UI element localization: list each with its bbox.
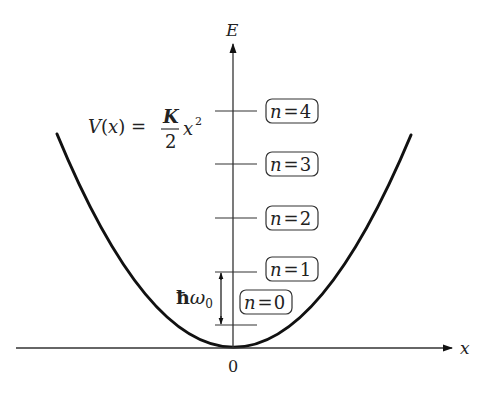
- svg-text:n=1: n=1: [270, 259, 311, 280]
- svg-text:n=2: n=2: [270, 208, 311, 229]
- level-label-3: n=3: [266, 152, 318, 176]
- formula-variable: x: [183, 118, 193, 139]
- formula-exponent: 2: [195, 115, 202, 128]
- harmonic-oscillator-diagram: E x 0 n=4 n=3 n=2 n=1 n=0 ħω0 V(x) = K: [0, 0, 491, 398]
- x-axis-label: x: [460, 338, 470, 358]
- level-label-1: n=1: [266, 257, 318, 281]
- spacing-label: ħω0: [176, 286, 213, 311]
- formula-numerator: K: [162, 106, 180, 127]
- level-label-0: n=0: [240, 290, 292, 314]
- svg-text:n=3: n=3: [270, 154, 311, 175]
- svg-text:V(x) =: V(x) =: [88, 116, 146, 137]
- svg-text:n=0: n=0: [244, 292, 285, 313]
- energy-axis-label: E: [225, 20, 239, 40]
- formula-denominator: 2: [165, 131, 176, 152]
- level-label-4: n=4: [266, 99, 318, 123]
- svg-text:n=4: n=4: [270, 101, 311, 122]
- potential-curve: [57, 134, 411, 347]
- potential-formula: V(x) = K 2 x 2: [88, 106, 202, 152]
- origin-label: 0: [228, 357, 238, 376]
- level-label-2: n=2: [266, 206, 318, 230]
